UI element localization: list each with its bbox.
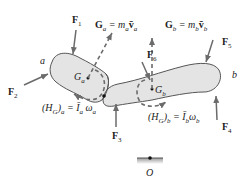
force-f1-label: F1 — [72, 15, 82, 28]
force-f5-label: F5 — [222, 37, 232, 50]
origin-label: O — [146, 168, 153, 178]
force-f1-arrow — [73, 30, 76, 54]
body-b-label: b — [232, 70, 237, 80]
center-b-label: Gb — [155, 85, 166, 98]
force-f2-arrow — [24, 74, 48, 85]
angular-momentum-a-label: (HG)a = Īa ωa — [42, 103, 96, 116]
force-f3-label: F3 — [112, 131, 122, 144]
body-a-label: a — [40, 56, 45, 66]
force-f4-arrow — [216, 96, 217, 120]
origin-point — [148, 156, 152, 160]
momentum-b-label: Gb = mbv̄b — [165, 20, 207, 33]
angular-momentum-b-label: (HG)b = Ībωb — [148, 112, 200, 125]
joint-pin — [102, 94, 106, 98]
force-f6-label: F6 — [147, 50, 157, 63]
force-f2-label: F2 — [8, 87, 18, 100]
force-f4-label: F4 — [222, 122, 232, 135]
force-f5-arrow — [206, 40, 213, 62]
momentum-a-label: Ga = mav̄a — [95, 20, 137, 33]
center-a-label: Ga — [74, 72, 85, 85]
